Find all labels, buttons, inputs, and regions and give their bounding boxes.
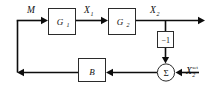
signal-label-x1: X 1 [83,5,94,17]
signal-x2set-subscript: 2 [192,72,195,78]
block-g2-subscript: 2 [127,22,130,28]
wire-b-to-feedback [17,69,78,76]
block-g1-subscript: 1 [67,22,70,28]
signal-label-x2-set: X 2 set [185,65,198,79]
block-g1[interactable]: G 1 [49,9,76,35]
block-g2[interactable]: G 2 [109,9,136,35]
block-gain-label: −1 [161,36,170,45]
block-b-label: B [89,67,95,77]
wire-g1-to-g2 [76,17,108,24]
summing-junction-label: Σ [163,68,168,78]
block-g2-label: G [117,17,124,27]
block-summing-junction[interactable]: Σ [157,64,174,81]
block-b[interactable]: B [79,59,106,82]
signal-label-x2: X 2 [149,5,160,17]
block-g1-label: G [57,17,64,27]
wire-g2-to-x2-output [136,17,205,24]
wire-m-to-g1 [17,17,48,24]
signal-x1-subscript: 1 [91,11,94,17]
wire-gain-to-sum [162,48,169,64]
signal-x2-subscript: 2 [157,11,160,17]
block-diagram-canvas: G 1 G 2 −1 B Σ M X [0,0,209,92]
signal-x2set-superscript: set [192,65,198,70]
wire-sum-to-b [106,69,157,76]
block-gain-negative-one[interactable]: −1 [158,32,174,48]
signal-m-text: M [26,5,36,15]
signal-label-m: M [26,5,36,15]
